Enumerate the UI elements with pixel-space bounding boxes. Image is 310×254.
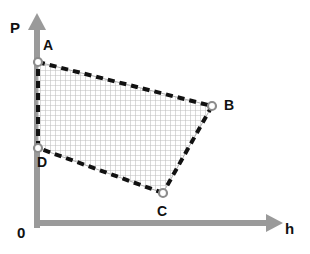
vertex-marker-d[interactable] [34,144,42,152]
pressure-axis-arrowhead [28,13,46,30]
vertex-label-d: D [37,155,47,169]
quadrilateral-hatch-fill [38,62,212,193]
vertex-label-c: C [157,204,167,218]
quadrilateral-fill-group [38,62,212,193]
enthalpy-axis-label: h [285,221,294,236]
vertex-marker-c[interactable] [159,189,167,197]
ph-diagram-figure: P 0 h A B C D [0,0,310,254]
vertex-marker-b[interactable] [208,102,216,110]
enthalpy-axis-arrowhead [266,214,283,232]
origin-label: 0 [17,225,25,240]
vertex-marker-a[interactable] [34,58,42,66]
vertex-label-b: B [224,98,234,112]
vertex-label-a: A [43,38,53,52]
pressure-axis-label: P [10,20,20,35]
